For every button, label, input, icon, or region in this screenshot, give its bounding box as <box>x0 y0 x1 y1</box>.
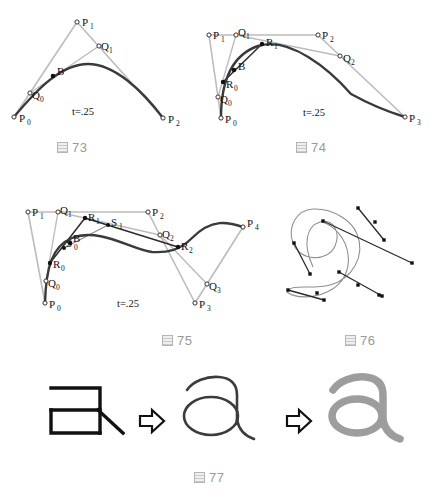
fig77-step-skeleton <box>51 388 123 433</box>
caption-76: 76 <box>345 333 375 348</box>
caption-75-number: 75 <box>177 333 192 348</box>
book-square-icon <box>162 335 173 346</box>
figure-77 <box>0 360 439 470</box>
fig77-step-outline-a <box>184 377 254 439</box>
fig77-step-filled-a <box>332 377 400 439</box>
caption-76-number: 76 <box>360 333 375 348</box>
arrow-right-icon-2 <box>287 410 311 432</box>
book-square-icon <box>345 335 356 346</box>
fig76-tangent-handles <box>288 208 412 300</box>
figure-plate: P 0 P 1 P 2 Q 0 Q 1 B t=.25 73 <box>0 0 439 492</box>
caption-77-number: 77 <box>209 470 224 485</box>
arrow-right-icon <box>140 410 164 432</box>
figure-76 <box>0 0 439 330</box>
caption-77: 77 <box>194 470 224 485</box>
book-square-icon <box>194 472 205 483</box>
caption-75: 75 <box>162 333 192 348</box>
